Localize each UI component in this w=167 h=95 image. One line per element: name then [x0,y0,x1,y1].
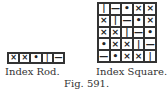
square-cell: — [98,50,110,62]
figure-caption: Fig. 591. [64,78,109,89]
rod-cell: × [19,53,30,63]
rod-cell: | [42,53,53,63]
square-cell: × [121,50,133,62]
square-cell: × [110,27,122,39]
square-cell: × [133,50,145,62]
square-cell: × [144,15,156,27]
square-cell: • [144,27,156,39]
square-cell: | [133,38,145,50]
rod-cell: × [8,53,19,63]
square-cell: × [133,3,145,15]
square-cell: | [144,50,156,62]
index-rod: × × • | — [7,52,65,64]
square-cell: × [121,38,133,50]
rod-cell: — [53,53,64,63]
square-cell: — [133,27,145,39]
square-cell: • [121,3,133,15]
square-cell: • [98,38,110,50]
rod-cell: • [30,53,41,63]
square-cell: — [110,3,122,15]
square-cell: | [121,27,133,39]
index-rod-label: Index Rod. [5,66,60,77]
square-cell: | [110,15,122,27]
index-square: | — • × × × | — • × × × | — • • × × | — … [97,2,157,63]
square-cell: • [133,15,145,27]
square-cell: × [144,3,156,15]
index-square-label: Index Square. [96,66,167,77]
square-cell: × [98,15,110,27]
square-cell: — [144,38,156,50]
square-cell: × [98,27,110,39]
square-cell: • [110,50,122,62]
square-cell: | [98,3,110,15]
square-cell: × [110,38,122,50]
square-cell: — [121,15,133,27]
